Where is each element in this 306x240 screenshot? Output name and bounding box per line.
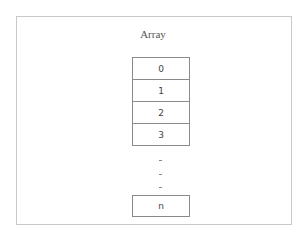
array-cell: 0 — [133, 58, 189, 79]
ellipsis-dot — [159, 160, 162, 161]
ellipsis-dot — [159, 187, 162, 188]
diagram-title: Array — [0, 28, 306, 40]
array-cell: 2 — [133, 101, 189, 123]
ellipsis-dot — [159, 174, 162, 175]
array-last-cell: n — [132, 195, 190, 217]
array-cell: 1 — [133, 79, 189, 101]
array-cell: 3 — [133, 123, 189, 145]
array-box: 0 1 2 3 — [132, 57, 190, 146]
